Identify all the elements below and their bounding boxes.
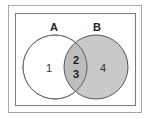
region-intersection-bottom: 3 <box>73 68 79 80</box>
region-intersection-top: 2 <box>73 54 79 66</box>
venn-diagram: A B 1 2 3 4 <box>0 0 148 119</box>
set-a-label: A <box>50 21 58 33</box>
region-a-only: 1 <box>46 62 52 74</box>
set-b-label: B <box>93 21 101 33</box>
region-b-only: 4 <box>100 62 106 74</box>
